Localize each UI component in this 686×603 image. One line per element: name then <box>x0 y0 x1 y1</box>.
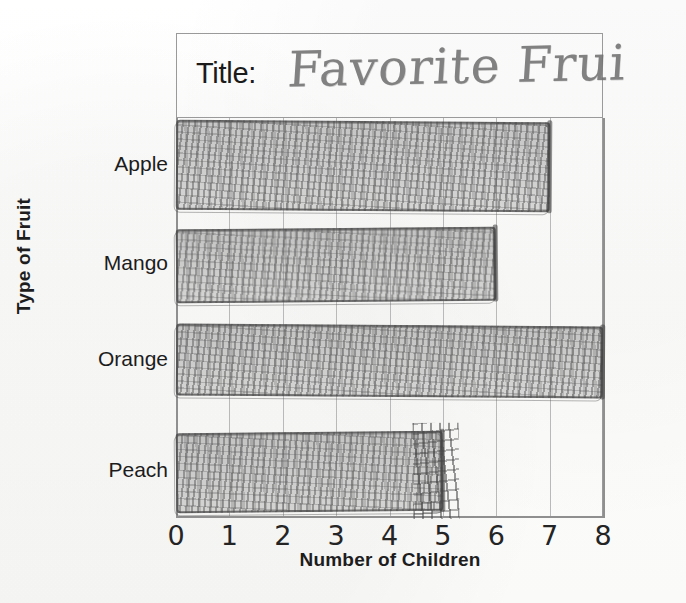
x-tick-label-1: 1 <box>212 520 246 551</box>
pencil-scribble-peach <box>412 423 459 519</box>
category-label-apple: Apple <box>26 152 176 176</box>
category-label-orange: Orange <box>26 347 176 371</box>
x-tick-label-2: 2 <box>266 520 300 551</box>
category-label-peach: Peach <box>26 458 176 482</box>
x-axis-line <box>176 516 603 518</box>
bar-orange <box>176 324 603 399</box>
bar-chart-worksheet: Type of Fruit Title: Favorite Frui 01234… <box>0 0 686 603</box>
bar-mango <box>176 227 497 304</box>
x-tick-label-7: 7 <box>533 520 567 551</box>
x-axis-title: Number of Children <box>176 549 604 571</box>
handwritten-chart-title: Favorite Frui <box>286 34 628 98</box>
bar-outline-overdraw-orange <box>174 325 602 401</box>
plot-area <box>176 118 603 518</box>
bar-outline-overdraw-apple <box>174 122 549 216</box>
x-tick-label-5: 5 <box>426 520 460 551</box>
x-tick-label-3: 3 <box>319 520 353 551</box>
x-tick-label-8: 8 <box>586 520 620 551</box>
bar-outline-overdraw-mango <box>174 229 496 307</box>
bar-outline-overdraw-peach <box>174 433 443 516</box>
category-label-mango: Mango <box>26 251 176 275</box>
x-tick-label-6: 6 <box>479 520 513 551</box>
x-tick-label-4: 4 <box>373 520 407 551</box>
bar-apple <box>176 120 550 213</box>
bar-peach <box>176 431 444 513</box>
y-category-labels: AppleMangoOrangePeach <box>10 0 176 603</box>
title-prefix-label: Title: <box>196 57 256 90</box>
